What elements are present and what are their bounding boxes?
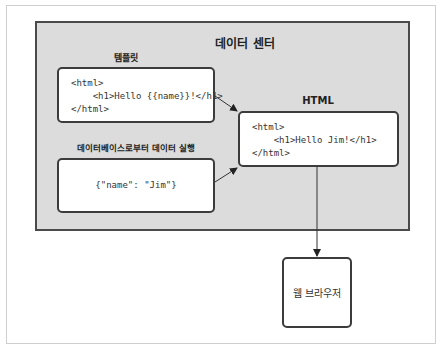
connector-arrows [0, 0, 442, 351]
arrow-template-to-html [215, 96, 237, 111]
arrow-data-to-html [215, 168, 237, 182]
